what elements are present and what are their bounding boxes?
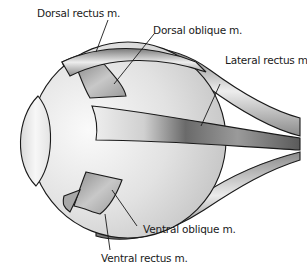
label-dorsal-rectus: Dorsal rectus m.: [37, 7, 120, 19]
label-lateral-rectus: Lateral rectus m.: [225, 54, 307, 66]
eye-muscle-diagram: Dorsal rectus m. Dorsal oblique m. Later…: [0, 0, 307, 272]
label-dorsal-oblique: Dorsal oblique m.: [153, 24, 242, 36]
label-ventral-rectus: Ventral rectus m.: [101, 252, 188, 264]
label-ventral-oblique: Ventral oblique m.: [143, 223, 236, 235]
